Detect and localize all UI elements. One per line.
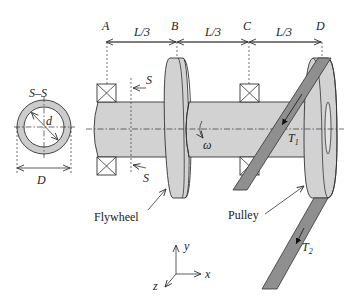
tension-t2-label: T2 xyxy=(302,240,313,256)
inner-diameter-label: d xyxy=(46,114,53,128)
z-axis-arrow xyxy=(165,274,176,287)
span-cd-label: L/3 xyxy=(275,25,292,39)
station-c-label: C xyxy=(243,19,252,33)
x-axis-label: x xyxy=(204,267,211,281)
omega-label: ω xyxy=(203,138,211,152)
shaft-left-segment xyxy=(94,102,170,157)
coordinate-triad: y x z xyxy=(152,239,211,293)
belt-lower: T2 xyxy=(262,198,328,289)
pulley-hub xyxy=(325,102,331,154)
z-axis-label: z xyxy=(152,279,158,293)
span-dimensions: A B C D L/3 L/3 L/3 xyxy=(101,19,325,84)
span-bc-label: L/3 xyxy=(204,25,221,39)
outer-diameter-label: D xyxy=(36,173,46,187)
station-a-label: A xyxy=(101,19,110,33)
section-cut-label-bottom: S xyxy=(143,171,149,185)
station-b-label: B xyxy=(171,19,179,33)
cross-section-s-s: S–S d D xyxy=(14,86,75,187)
shaft-diagram: S–S d D A B C D L/3 L/3 L/3 xyxy=(0,0,353,306)
y-axis-label: y xyxy=(183,239,190,253)
flywheel-label: Flywheel xyxy=(94,210,139,224)
span-ab-label: L/3 xyxy=(133,25,150,39)
pulley-label: Pulley xyxy=(228,208,259,222)
flywheel-callout: Flywheel xyxy=(94,189,166,224)
station-d-label: D xyxy=(315,19,325,33)
section-cut-label-top: S xyxy=(146,73,152,87)
pulley-callout: Pulley xyxy=(228,186,304,222)
